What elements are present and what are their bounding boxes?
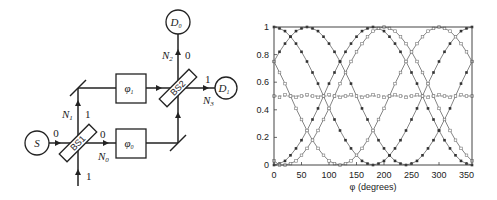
detector-1: D1 [215,77,237,99]
source-label: S [34,137,40,149]
data-point [317,147,320,150]
data-point [372,93,375,96]
arrow-icon [156,85,162,91]
data-point [328,42,331,45]
data-point [306,93,309,96]
data-point [460,42,463,45]
data-point [443,118,446,121]
data-point [432,71,435,74]
data-point [311,139,314,142]
data-point [410,118,413,121]
data-point [317,82,320,85]
data-point [399,139,402,142]
data-point [377,139,380,142]
data-point [366,118,369,121]
data-point [449,147,452,150]
data-point [460,82,463,85]
data-point [355,154,358,157]
data-point [460,30,463,33]
data-point [306,129,309,132]
data-point [438,129,441,132]
data-point [405,60,408,63]
data-point [355,95,358,98]
data-point [339,60,342,63]
data-point [394,160,397,163]
data-point [410,71,413,74]
data-point [350,42,353,45]
data-point [421,154,424,157]
data-point [333,118,336,121]
data-point [300,118,303,121]
data-point [465,51,468,54]
data-point [317,30,320,33]
y-tick-label: 0 [264,160,269,170]
data-point [295,147,298,150]
data-point [465,154,468,157]
arrow-icon [55,140,61,146]
data-point [460,93,463,96]
data-point [361,30,364,33]
data-point [416,42,419,45]
data-point [311,71,314,74]
data-point [454,139,457,142]
port-label-bs1-out-right: 0 [100,128,106,140]
series-5 [273,93,474,98]
data-point [427,147,430,150]
N1-label: N1 [61,108,73,122]
data-point [328,160,331,163]
source: S [25,131,49,155]
data-point [416,60,419,63]
data-point [388,35,391,38]
data-point [432,95,435,98]
data-point [388,95,391,98]
data-point [361,147,364,150]
x-tick-label: 200 [376,170,391,180]
phase-shifter-1: φ1 [116,74,146,103]
data-point [366,35,369,38]
data-point [377,118,380,121]
data-point [322,95,325,98]
data-point [300,51,303,54]
data-point [399,51,402,54]
x-tick-label: 150 [349,170,364,180]
data-point [427,82,430,85]
data-point [289,35,292,38]
data-point [355,35,358,38]
data-point [449,107,452,110]
data-point [438,107,441,110]
data-point [465,71,468,74]
data-point [328,82,331,85]
data-point [339,96,342,99]
arrow-icon [203,85,209,91]
x-tick-label: 50 [296,170,306,180]
data-point [300,154,303,157]
data-point [394,42,397,45]
data-point [350,93,353,96]
data-point [300,139,303,142]
data-point [322,35,325,38]
data-point [421,95,424,98]
phase-shifter-0: φ0 [116,129,146,158]
data-point [344,139,347,142]
data-point [322,154,325,157]
x-axis-label: φ (degrees) [350,182,397,192]
data-point [300,95,303,98]
data-point [427,96,430,99]
data-point [416,107,419,110]
data-point [410,51,413,54]
y-tick-label: 0.2 [256,132,269,142]
data-point [372,129,375,132]
port-label-bs2-out-up: 0 [185,49,191,61]
data-point [405,96,408,99]
probability-chart: 050100150200250300350 00.20.40.60.81 φ (… [250,0,497,200]
N2-label: N2 [161,49,173,63]
data-point [377,95,380,98]
data-point [449,96,452,99]
N0-label: N0 [97,150,109,164]
data-point [394,82,397,85]
N3-label: N3 [202,94,214,108]
data-point [443,95,446,98]
x-tick-label: 0 [271,170,276,180]
data-point [399,35,402,38]
data-point [284,82,287,85]
